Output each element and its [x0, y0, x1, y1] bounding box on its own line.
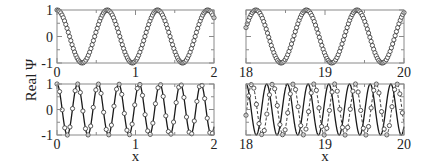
- data-point-marker: [130, 122, 134, 126]
- data-point-marker: [94, 30, 98, 34]
- data-point-marker: [89, 124, 93, 128]
- y-tick-label: 0: [46, 30, 53, 45]
- x-tick-label: 1: [132, 65, 139, 80]
- data-point-marker: [299, 124, 303, 128]
- y-tick-label: 1: [46, 3, 53, 18]
- x-tick-label: 20: [397, 137, 411, 152]
- data-point-marker: [292, 34, 296, 38]
- data-point-marker: [69, 39, 73, 43]
- y-tick-label: 1: [46, 77, 53, 92]
- data-point-marker: [66, 30, 70, 34]
- data-point-marker: [273, 87, 277, 91]
- data-point-marker: [148, 132, 152, 136]
- data-point-marker: [57, 89, 61, 93]
- data-point-marker: [365, 27, 369, 31]
- data-point-marker: [192, 119, 196, 123]
- data-point-marker: [264, 27, 268, 31]
- data-point-marker: [351, 89, 355, 93]
- panel-bottom-left: 012-101x: [41, 77, 217, 164]
- data-point-marker: [257, 122, 261, 126]
- data-point-marker: [63, 126, 67, 130]
- data-point-marker: [398, 92, 402, 96]
- data-point-marker: [291, 38, 295, 42]
- data-point-marker: [314, 88, 318, 92]
- data-point-marker: [144, 30, 148, 34]
- data-point-marker: [161, 94, 165, 98]
- data-point-marker: [151, 121, 155, 125]
- data-point-marker: [191, 43, 195, 47]
- data-point-marker: [125, 128, 129, 132]
- data-point-marker: [114, 87, 118, 91]
- data-point-marker: [205, 116, 209, 120]
- data-point-marker: [346, 125, 350, 129]
- data-point-marker: [143, 113, 147, 117]
- data-point-marker: [140, 43, 144, 47]
- data-point-marker: [169, 39, 173, 43]
- data-point-marker: [338, 107, 342, 111]
- data-point-marker: [369, 39, 373, 43]
- data-point-marker: [283, 128, 287, 132]
- data-point-marker: [122, 111, 126, 115]
- data-point-marker: [317, 35, 321, 39]
- data-point-marker: [116, 30, 120, 34]
- data-point-marker: [94, 88, 98, 92]
- data-point-marker: [394, 29, 398, 33]
- data-point-marker: [252, 86, 256, 90]
- data-point-marker: [143, 34, 147, 38]
- data-point-marker: [93, 34, 97, 38]
- data-point-marker: [102, 110, 106, 114]
- x-tick-label: 18: [239, 137, 253, 152]
- panel-bottom-right: 181920x: [239, 82, 411, 164]
- data-point-marker: [367, 31, 371, 35]
- data-point-marker: [316, 31, 320, 35]
- data-point-marker: [164, 114, 168, 118]
- data-point-marker: [368, 35, 372, 39]
- data-point-marker: [317, 106, 321, 110]
- data-point-marker: [184, 115, 188, 119]
- data-point-marker: [169, 132, 173, 136]
- data-point-marker: [192, 39, 196, 43]
- data-point-marker: [265, 112, 269, 116]
- x-tick-label: 2: [211, 137, 218, 152]
- data-point-marker: [68, 125, 72, 129]
- data-point-marker: [288, 92, 292, 96]
- data-point-marker: [286, 111, 290, 115]
- data-point-marker: [275, 103, 279, 107]
- data-point-marker: [296, 105, 300, 109]
- series-markers-numerical: [244, 8, 406, 65]
- data-point-marker: [335, 89, 339, 93]
- series-markers-numerical: [55, 8, 216, 65]
- data-point-marker: [315, 27, 319, 31]
- data-point-marker: [167, 30, 171, 34]
- data-point-marker: [382, 127, 386, 131]
- data-point-marker: [390, 105, 394, 109]
- data-point-marker: [91, 105, 95, 109]
- data-point-marker: [265, 31, 269, 35]
- x-tick-label: 18: [239, 65, 253, 80]
- data-point-marker: [278, 123, 282, 127]
- data-point-marker: [340, 125, 344, 129]
- data-point-marker: [83, 127, 87, 131]
- data-point-marker: [293, 29, 297, 33]
- data-point-marker: [289, 42, 293, 46]
- y-tick-label: -1: [41, 128, 53, 143]
- y-tick-label: 0: [46, 103, 53, 118]
- data-point-marker: [341, 38, 345, 42]
- data-point-marker: [361, 126, 365, 130]
- data-point-marker: [306, 110, 310, 114]
- data-point-marker: [340, 42, 344, 46]
- data-point-marker: [392, 38, 396, 42]
- data-point-marker: [193, 34, 197, 38]
- data-point-marker: [320, 124, 324, 128]
- panel-top-right: 181920: [239, 8, 411, 80]
- data-point-marker: [174, 100, 178, 104]
- data-point-marker: [268, 39, 272, 43]
- data-point-marker: [203, 96, 207, 100]
- data-point-marker: [356, 90, 360, 94]
- data-point-marker: [267, 93, 271, 97]
- data-point-marker: [327, 108, 331, 112]
- data-point-marker: [119, 39, 123, 43]
- data-point-marker: [254, 102, 258, 106]
- data-point-marker: [195, 99, 199, 103]
- panel-top-left: 012-101: [41, 3, 217, 80]
